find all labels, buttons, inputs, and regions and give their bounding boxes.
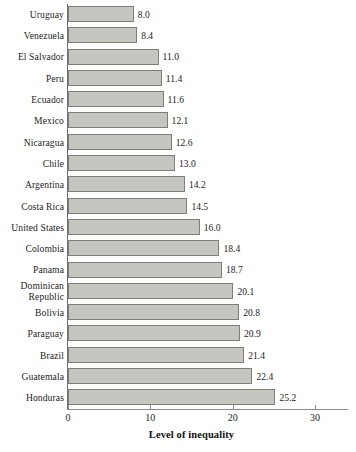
bar [68, 49, 159, 65]
bar-value-label: 8.0 [138, 4, 150, 25]
bar [68, 134, 172, 150]
bar-value-label: 20.9 [244, 323, 261, 344]
bar-value-label: 14.2 [189, 174, 206, 195]
x-tick-mark [233, 405, 234, 410]
bar-row: Peru11.4 [0, 68, 356, 89]
x-tick-mark [315, 405, 316, 410]
bar-value-label: 20.1 [237, 281, 254, 302]
category-label: El Salvador [0, 47, 64, 68]
category-label: Costa Rica [0, 196, 64, 217]
bar [68, 262, 222, 278]
bar-row: Honduras25.2 [0, 387, 356, 408]
category-label: Colombia [0, 238, 64, 259]
bar-row: Dominican Republic20.1 [0, 281, 356, 302]
bar-value-label: 21.4 [248, 345, 265, 366]
category-label: Mexico [0, 110, 64, 131]
bar [68, 219, 200, 235]
bar [68, 91, 164, 107]
category-label: Panama [0, 260, 64, 281]
bar-value-label: 20.8 [243, 302, 260, 323]
bar-value-label: 16.0 [204, 217, 221, 238]
x-tick-mark [150, 405, 151, 410]
bar-row: United States16.0 [0, 217, 356, 238]
bar-row: Brazil21.4 [0, 345, 356, 366]
bar-value-label: 22.4 [256, 366, 273, 387]
bar-value-label: 11.4 [166, 68, 182, 89]
bar-chart: Uruguay8.0Venezuela8.4El Salvador11.0Per… [0, 0, 356, 452]
bar [68, 304, 239, 320]
bar-row: Venezuela8.4 [0, 25, 356, 46]
bar-row: Chile13.0 [0, 153, 356, 174]
bar-row: Ecuador11.6 [0, 89, 356, 110]
category-label: Guatemala [0, 366, 64, 387]
x-tick-label: 0 [53, 412, 83, 424]
category-label: Bolivia [0, 302, 64, 323]
bar [68, 368, 252, 384]
bar [68, 198, 187, 214]
category-label: Nicaragua [0, 132, 64, 153]
bar-row: Mexico12.1 [0, 110, 356, 131]
x-tick-label: 20 [218, 412, 248, 424]
category-label: Argentina [0, 174, 64, 195]
bar-value-label: 13.0 [179, 153, 196, 174]
bar-row: Costa Rica14.5 [0, 196, 356, 217]
category-label: Venezuela [0, 25, 64, 46]
bar [68, 155, 175, 171]
x-tick-label: 30 [300, 412, 330, 424]
bar-row: Panama18.7 [0, 260, 356, 281]
x-tick-mark [68, 405, 69, 410]
bar-value-label: 11.0 [163, 47, 179, 68]
bar-value-label: 12.6 [176, 132, 193, 153]
bar-row: Paraguay20.9 [0, 323, 356, 344]
category-label: United States [0, 217, 64, 238]
x-tick-label: 10 [135, 412, 165, 424]
bar [68, 6, 134, 22]
bar [68, 325, 240, 341]
category-label: Uruguay [0, 4, 64, 25]
bar-value-label: 18.4 [223, 238, 240, 259]
bar-row: Colombia18.4 [0, 238, 356, 259]
bar [68, 70, 162, 86]
bar-row: Bolivia20.8 [0, 302, 356, 323]
bar-value-label: 11.6 [168, 89, 184, 110]
bar [68, 347, 244, 363]
plot-area: Uruguay8.0Venezuela8.4El Salvador11.0Per… [0, 0, 356, 452]
category-label: Ecuador [0, 89, 64, 110]
bar [68, 27, 137, 43]
bar [68, 389, 275, 405]
bar-value-label: 14.5 [191, 196, 208, 217]
bar-value-label: 12.1 [172, 110, 189, 131]
category-label: Brazil [0, 345, 64, 366]
bar-row: El Salvador11.0 [0, 47, 356, 68]
x-axis-line [67, 409, 348, 410]
bar-value-label: 8.4 [141, 25, 153, 46]
bar [68, 283, 233, 299]
bar-row: Uruguay8.0 [0, 4, 356, 25]
bar [68, 112, 168, 128]
category-label: Dominican Republic [0, 281, 64, 302]
bar-row: Guatemala22.4 [0, 366, 356, 387]
bar-rows: Uruguay8.0Venezuela8.4El Salvador11.0Per… [0, 4, 356, 409]
bar-value-label: 25.2 [279, 387, 296, 408]
category-label: Chile [0, 153, 64, 174]
category-label: Honduras [0, 387, 64, 408]
x-axis-title: Level of inequality [68, 429, 315, 440]
bar [68, 176, 185, 192]
bar-value-label: 18.7 [226, 260, 243, 281]
bar-row: Nicaragua12.6 [0, 132, 356, 153]
category-label: Paraguay [0, 323, 64, 344]
category-label: Peru [0, 68, 64, 89]
bar-row: Argentina14.2 [0, 174, 356, 195]
bar [68, 240, 219, 256]
